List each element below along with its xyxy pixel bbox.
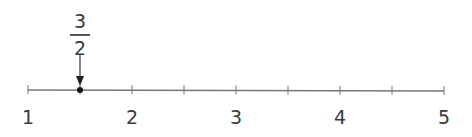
fraction-bar: [70, 34, 90, 36]
tick-label-3: 3: [230, 108, 242, 127]
fraction-numerator: 3: [74, 10, 86, 32]
fraction-label: 3 2: [70, 12, 90, 58]
marked-point: [77, 87, 83, 93]
tick-label-2: 2: [126, 108, 138, 127]
tick-label-5: 5: [438, 108, 450, 127]
tick-label-4: 4: [334, 108, 346, 127]
arrow-down-icon: [76, 76, 84, 86]
number-line-diagram: 3 2 1 2 3 4 5: [0, 0, 472, 137]
fraction-denominator: 2: [74, 37, 86, 59]
tick-label-1: 1: [22, 108, 34, 127]
